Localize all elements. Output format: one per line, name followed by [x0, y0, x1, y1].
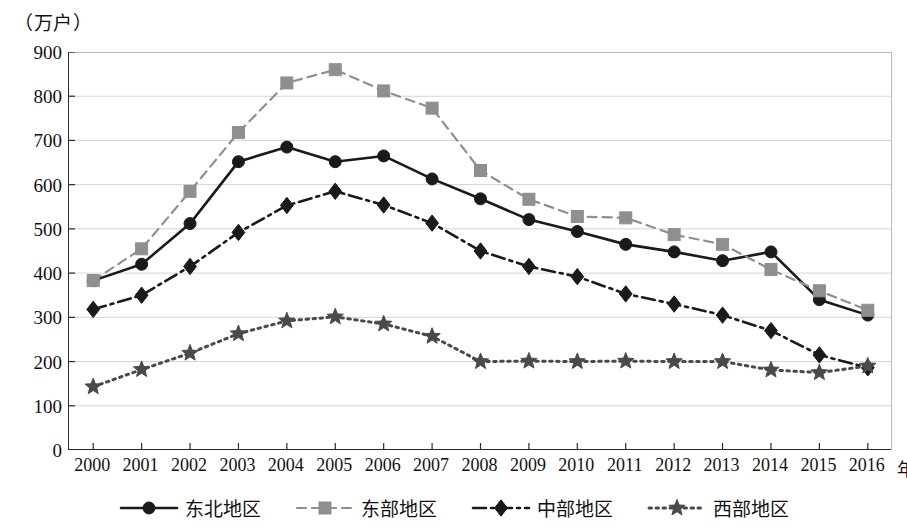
plot-area [68, 52, 891, 450]
data-point-中部地区-2010 [571, 268, 584, 284]
legend-item-东北地区[interactable]: 东北地区 [119, 494, 261, 521]
y-axis-tick-labels: 0100200300400500600700800900 [0, 52, 62, 450]
legend-marker-东部地区 [319, 502, 331, 514]
data-point-东部地区-2014 [765, 264, 777, 276]
data-point-中部地区-2014 [765, 322, 778, 338]
data-point-东部地区-2007 [426, 102, 438, 114]
data-point-东部地区-2015 [813, 285, 825, 297]
series-line-中部地区 [93, 191, 868, 367]
y-axis-tick-500: 500 [6, 219, 62, 238]
data-point-东部地区-2016 [862, 304, 874, 316]
x-axis-tick-2014: 2014 [752, 455, 788, 476]
x-axis-tick-2011: 2011 [607, 455, 642, 476]
x-axis-tick-2015: 2015 [800, 455, 836, 476]
legend-item-西部地区[interactable]: 西部地区 [647, 494, 789, 521]
legend-label-东部地区: 东部地区 [361, 494, 437, 521]
data-point-中部地区-2004 [280, 197, 293, 213]
series-东部地区 [87, 64, 874, 317]
x-axis-tick-2008: 2008 [462, 455, 498, 476]
data-point-东北地区-2009 [523, 214, 535, 226]
y-axis-tick-0: 0 [6, 441, 62, 460]
data-point-中部地区-2005 [329, 183, 342, 199]
data-point-西部地区-2005 [327, 308, 343, 324]
data-point-东部地区-2013 [717, 238, 729, 250]
data-point-西部地区-2008 [472, 353, 488, 369]
data-point-中部地区-2013 [716, 307, 729, 323]
data-point-东北地区-2002 [184, 218, 196, 230]
legend-marker-中部地区 [494, 499, 507, 515]
data-point-西部地区-2001 [133, 361, 149, 377]
x-axis-tick-2003: 2003 [219, 455, 255, 476]
data-point-东北地区-2007 [426, 173, 438, 185]
y-axis-tick-200: 200 [6, 352, 62, 371]
x-axis-tick-2006: 2006 [365, 455, 401, 476]
data-point-西部地区-2012 [666, 353, 682, 369]
y-axis-tick-900: 900 [6, 43, 62, 62]
data-point-西部地区-2002 [182, 345, 198, 361]
data-point-中部地区-2011 [619, 286, 632, 302]
data-point-东部地区-2002 [184, 185, 196, 197]
chart-legend: 东北地区东部地区中部地区西部地区 [0, 494, 907, 521]
data-point-中部地区-2003 [232, 224, 245, 240]
legend-item-东部地区[interactable]: 东部地区 [295, 494, 437, 521]
data-point-西部地区-2003 [230, 325, 246, 341]
data-point-中部地区-2009 [523, 258, 536, 274]
data-point-中部地区-2012 [668, 296, 681, 312]
data-point-东部地区-2009 [523, 193, 535, 205]
data-point-东北地区-2010 [571, 226, 583, 238]
x-axis-name: 年份 [897, 455, 907, 481]
series-西部地区 [85, 308, 876, 393]
x-axis-tick-2001: 2001 [123, 455, 159, 476]
x-axis-tick-2005: 2005 [316, 455, 352, 476]
data-point-东部地区-2011 [620, 212, 632, 224]
data-point-西部地区-2015 [811, 364, 827, 380]
data-point-东北地区-2013 [717, 255, 729, 267]
data-point-东北地区-2006 [378, 150, 390, 162]
y-axis-unit-label: （万户） [14, 8, 92, 35]
data-point-东北地区-2011 [620, 238, 632, 250]
data-point-西部地区-2011 [618, 353, 634, 369]
legend-item-中部地区[interactable]: 中部地区 [471, 494, 613, 521]
data-point-东北地区-2012 [668, 246, 680, 258]
data-point-西部地区-2010 [569, 353, 585, 369]
x-axis-tick-labels: 2000200120022003200420052006200720082009… [68, 455, 907, 485]
legend-label-东北地区: 东北地区 [185, 494, 261, 521]
data-point-中部地区-2008 [474, 243, 487, 259]
y-axis-tick-300: 300 [6, 308, 62, 327]
legend-label-中部地区: 中部地区 [537, 494, 613, 521]
data-point-东部地区-2000 [87, 275, 99, 287]
data-point-中部地区-2000 [87, 301, 100, 317]
x-axis-tick-2013: 2013 [704, 455, 740, 476]
data-point-东北地区-2001 [136, 258, 148, 270]
data-point-东部地区-2010 [571, 211, 583, 223]
legend-symbol-star [647, 497, 707, 519]
data-point-西部地区-2014 [763, 361, 779, 377]
data-point-西部地区-2013 [714, 353, 730, 369]
data-point-中部地区-2006 [377, 197, 390, 213]
y-axis-tick-700: 700 [6, 131, 62, 150]
data-point-中部地区-2002 [184, 258, 197, 274]
data-point-东部地区-2001 [136, 243, 148, 255]
legend-symbol-circle [119, 497, 179, 519]
data-point-西部地区-2000 [85, 378, 101, 394]
y-axis-tick-600: 600 [6, 175, 62, 194]
x-axis-tick-2004: 2004 [268, 455, 304, 476]
data-point-中部地区-2001 [135, 287, 148, 303]
data-point-东部地区-2006 [378, 85, 390, 97]
x-axis-tick-2016: 2016 [849, 455, 885, 476]
data-point-西部地区-2009 [521, 353, 537, 369]
data-point-东北地区-2008 [475, 193, 487, 205]
chart-svg [69, 52, 892, 450]
x-axis-tick-2007: 2007 [413, 455, 449, 476]
y-axis-tick-800: 800 [6, 87, 62, 106]
legend-marker-东北地区 [143, 502, 155, 514]
legend-marker-西部地区 [668, 499, 684, 515]
data-point-东部地区-2005 [329, 64, 341, 76]
data-point-东北地区-2014 [765, 246, 777, 258]
x-axis-tick-2012: 2012 [655, 455, 691, 476]
x-axis-tick-2010: 2010 [558, 455, 594, 476]
data-point-东部地区-2008 [475, 165, 487, 177]
data-point-东北地区-2003 [232, 156, 244, 168]
data-point-东北地区-2005 [329, 156, 341, 168]
legend-symbol-diamond [471, 497, 531, 519]
